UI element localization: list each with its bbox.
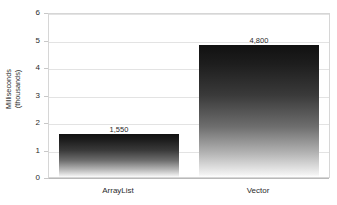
bar-value-label: 4,800 <box>199 37 319 45</box>
x-axis-tick-label: ArrayList <box>48 186 188 196</box>
y-axis-tick-label: 0 <box>36 174 40 182</box>
bar-chart: Milliseconds (thousands) 0123456 1,5504,… <box>0 0 337 205</box>
y-axis-tick-label: 5 <box>36 37 40 45</box>
y-axis-tick-labels: 0123456 <box>26 0 43 190</box>
y-axis-tick-label: 2 <box>36 119 40 127</box>
y-axis-tick-label: 1 <box>36 147 40 155</box>
bar-value-label: 1,550 <box>59 126 179 134</box>
y-axis-title-line1: Milliseconds <box>4 69 13 109</box>
plot-area: 1,5504,800 <box>48 13 330 178</box>
y-axis-title: Milliseconds (thousands) <box>0 0 26 178</box>
bar <box>199 45 319 177</box>
y-axis-tick-label: 6 <box>36 9 40 17</box>
bar <box>59 134 179 177</box>
y-axis-tick-label: 3 <box>36 92 40 100</box>
y-axis-title-line2: (thousands) <box>13 69 22 109</box>
gridline <box>49 178 329 179</box>
x-axis-tick-label: Vector <box>188 186 328 196</box>
gridline <box>49 14 329 15</box>
x-axis-tick-labels: ArrayListVector <box>48 186 330 200</box>
y-axis-tick-label: 4 <box>36 64 40 72</box>
